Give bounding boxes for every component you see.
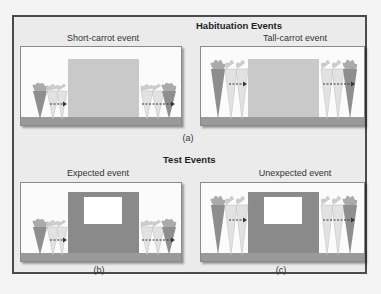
- short-carrot-caption: Short-carrot event: [48, 33, 158, 43]
- carrot-icon: [211, 60, 249, 119]
- tall-carrot-illustration: [201, 183, 364, 261]
- unexpected-event-panel: [200, 182, 365, 262]
- carrot-icon: [211, 196, 249, 255]
- tall-carrot-caption: Tall-carrot event: [245, 33, 345, 43]
- short-carrot-illustration: [21, 47, 181, 125]
- carrot-icon: [33, 83, 68, 119]
- carrot-icon: [140, 219, 176, 255]
- panel-letter-b: (b): [89, 265, 109, 275]
- carrot-icon: [140, 83, 176, 119]
- expected-event-caption: Expected event: [48, 168, 148, 178]
- panel-letter-c: (c): [271, 265, 291, 275]
- test-events-title: Test Events: [163, 154, 216, 165]
- short-carrot-illustration: [21, 183, 181, 261]
- panel-letter-a: (a): [178, 133, 198, 143]
- carrot-icon: [321, 60, 357, 119]
- unexpected-event-caption: Unexpected event: [245, 168, 345, 178]
- short-carrot-habituation-panel: [20, 46, 182, 126]
- carrot-icon: [33, 219, 68, 255]
- expected-event-panel: [20, 182, 182, 262]
- habituation-events-title: Habituation Events: [196, 20, 282, 31]
- carrot-icon: [321, 196, 357, 255]
- tall-carrot-illustration: [201, 47, 364, 125]
- tall-carrot-habituation-panel: [200, 46, 365, 126]
